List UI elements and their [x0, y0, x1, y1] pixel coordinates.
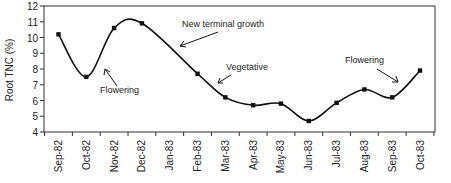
x-tick-label: Aug-83: [359, 140, 370, 173]
x-tick-label: Jan-83: [164, 140, 175, 171]
x-axis: Sep-82Oct-82Nov-82Dec-82Jan-83Feb-83Mar-…: [45, 132, 434, 173]
data-point-marker: [362, 87, 366, 91]
arrow-icon: [180, 32, 218, 46]
y-axis: 456789101112: [27, 1, 44, 138]
y-tick-label: 5: [32, 111, 38, 122]
annotation-new-terminal-growth: New terminal growth: [180, 19, 264, 47]
x-tick-label: Oct-83: [415, 140, 426, 170]
y-tick-label: 8: [32, 64, 38, 75]
x-tick-label: Oct-82: [81, 140, 92, 170]
x-tick-label: Sep-82: [53, 140, 64, 173]
annotation-flowering-2: Flowering: [345, 55, 398, 82]
arrow-icon: [377, 69, 398, 82]
annotation-label: New terminal growth: [182, 19, 264, 29]
y-tick-label: 10: [27, 33, 39, 44]
data-markers: [56, 21, 422, 123]
y-tick-label: 11: [28, 17, 39, 28]
x-tick-label: Feb-83: [192, 140, 203, 172]
data-point-marker: [195, 72, 199, 76]
y-axis-label: Root TNC (%): [4, 39, 15, 102]
x-tick-label: Dec-82: [136, 140, 147, 173]
line-chart: 456789101112 Sep-82Oct-82Nov-82Dec-82Jan…: [0, 0, 451, 183]
x-tick-label: Mar-83: [220, 140, 231, 172]
arrow-icon: [105, 69, 117, 86]
data-point-marker: [84, 75, 88, 79]
x-tick-label: Nov-82: [109, 140, 120, 173]
annotation-label: Flowering: [345, 55, 384, 65]
annotation-label: Vegetative: [226, 62, 268, 72]
y-tick-label: 6: [32, 96, 38, 107]
x-tick-label: Jun-83: [303, 140, 314, 171]
y-tick-label: 12: [27, 1, 39, 12]
y-tick-label: 4: [32, 127, 38, 138]
data-point-marker: [390, 95, 394, 99]
data-point-marker: [418, 68, 422, 72]
x-tick-label: Sep-83: [387, 140, 398, 173]
x-tick-label: May-83: [275, 140, 286, 174]
data-point-marker: [307, 119, 311, 123]
annotation-flowering-1: Flowering: [100, 69, 139, 95]
data-point-marker: [251, 103, 255, 107]
x-tick-label: Jul-83: [331, 140, 342, 168]
y-tick-label: 9: [32, 48, 38, 59]
x-tick-label: Apr-83: [248, 140, 259, 170]
data-point-marker: [140, 21, 144, 25]
annotation-vegetative: Vegetative: [218, 62, 268, 83]
data-point-marker: [223, 95, 227, 99]
data-point-marker: [334, 101, 338, 105]
annotation-label: Flowering: [100, 85, 139, 95]
data-point-marker: [112, 26, 116, 30]
y-tick-label: 7: [32, 80, 38, 91]
data-point-marker: [56, 32, 60, 36]
data-point-marker: [279, 101, 283, 105]
